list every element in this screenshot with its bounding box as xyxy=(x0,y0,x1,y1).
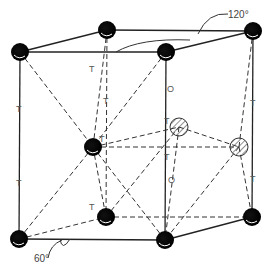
angle-label-60: 60° xyxy=(34,253,49,264)
atom-solid xyxy=(98,21,116,39)
svg-text:T: T xyxy=(16,178,22,188)
site-labels: T T T T T T O T T O T T xyxy=(16,64,256,212)
svg-text:T: T xyxy=(250,98,256,108)
svg-text:T: T xyxy=(103,96,109,106)
atom-hatched xyxy=(230,138,248,156)
atom-hatched xyxy=(170,118,188,136)
atom-solid xyxy=(10,230,28,248)
angle-markers xyxy=(48,14,228,258)
svg-text:T: T xyxy=(16,104,22,114)
atom-solid xyxy=(243,208,261,226)
svg-text:T: T xyxy=(164,152,170,162)
angle-label-120: 120° xyxy=(228,9,249,20)
hatched-atoms xyxy=(170,118,248,156)
svg-text:T: T xyxy=(89,202,95,212)
solid-atoms xyxy=(10,21,262,249)
internal-bonds xyxy=(19,30,253,240)
svg-text:T: T xyxy=(250,174,256,184)
atom-solid xyxy=(84,138,102,156)
atom-solid xyxy=(156,231,174,249)
hcp-unit-cell-diagram: 120° 60° T T T T T T O T T O T T xyxy=(0,0,272,273)
crystal-lattice-svg: 120° 60° T T T T T T O T T O T T xyxy=(0,0,272,273)
atom-solid xyxy=(157,43,175,61)
atom-solid xyxy=(97,208,115,226)
atom-solid xyxy=(244,22,262,40)
svg-text:O: O xyxy=(167,84,174,94)
svg-text:T: T xyxy=(89,64,95,74)
atom-solid xyxy=(11,43,29,61)
svg-text:O: O xyxy=(168,175,175,185)
svg-text:T: T xyxy=(164,116,170,126)
cell-edges xyxy=(19,30,253,240)
